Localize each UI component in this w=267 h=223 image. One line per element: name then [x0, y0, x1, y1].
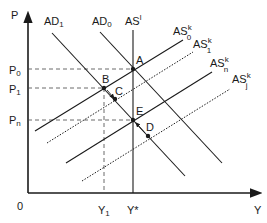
ad0-curve [100, 32, 222, 163]
point-d [146, 134, 150, 138]
point-e [131, 118, 135, 122]
y1-label: Y1 [98, 204, 110, 218]
asnk-label: ASkn [210, 55, 230, 74]
d-to-e-arrow [137, 124, 145, 133]
point-d-label: D [146, 121, 154, 133]
y-axis-label: P [11, 9, 18, 21]
p1-label: P1 [9, 83, 21, 97]
as0k-curve [35, 40, 183, 131]
point-c-label: C [115, 85, 123, 97]
ad1-label: AD1 [44, 15, 64, 29]
point-b-label: B [102, 73, 109, 85]
ad0-label: AD0 [92, 15, 112, 29]
p0-label: P0 [9, 64, 21, 78]
as1k-label: ASk1 [193, 36, 213, 55]
ad1-curve [52, 33, 185, 176]
as0k-label: ASk0 [173, 23, 193, 42]
point-b [102, 86, 106, 90]
point-e-label: E [136, 105, 143, 117]
as-ad-diagram: P Y 0 P0 P1 Pn Y1 Y* AD1 AD0 ASl ASk0 AS… [0, 0, 267, 223]
origin-label: 0 [17, 200, 23, 212]
pn-label: Pn [9, 114, 21, 128]
asjk-label: ASkj [232, 71, 252, 90]
asl-label: ASl [125, 13, 142, 27]
ystar-label: Y* [127, 204, 139, 216]
point-c [113, 97, 117, 101]
x-axis-label: Y [254, 204, 262, 216]
point-a-label: A [136, 54, 144, 66]
point-a [131, 67, 135, 71]
